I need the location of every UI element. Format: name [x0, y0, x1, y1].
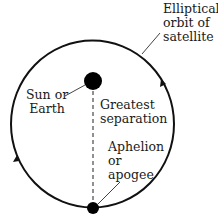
orbit-label-leader — [142, 33, 160, 54]
aphelion-label-leader — [98, 182, 120, 204]
orbit-label: Elliptical orbit of satellite — [163, 2, 218, 44]
satellite-at-aphelion — [87, 202, 99, 214]
aphelion-label: Aphelion or apogee — [108, 140, 164, 182]
body-label: Sun or Earth — [26, 88, 68, 116]
separation-label: Greatest separation — [100, 98, 167, 126]
sun-or-earth-body — [84, 72, 102, 90]
